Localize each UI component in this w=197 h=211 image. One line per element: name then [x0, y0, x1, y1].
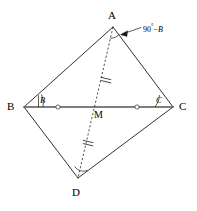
angle-a-annotation-leader — [121, 28, 142, 37]
angle-mark-d — [75, 167, 88, 172]
am-double-tick — [101, 77, 111, 82]
geometry-figure: A B C D M B C 90°−B — [0, 0, 197, 211]
annotation-variable: B — [158, 25, 163, 34]
segment-ac — [113, 27, 173, 107]
annotation-degrees: 90 — [143, 25, 151, 34]
segment-bd — [24, 107, 78, 178]
segment-ab — [24, 27, 113, 107]
vertex-label-b: B — [7, 101, 14, 112]
figure-canvas — [0, 0, 197, 211]
vertex-label-d: D — [72, 187, 80, 198]
quadrilateral-outline — [24, 27, 173, 178]
vertex-label-a: A — [108, 10, 116, 21]
angle-a-annotation: 90°−B — [143, 23, 163, 34]
vertex-label-c: C — [179, 101, 186, 112]
vertex-label-m: M — [94, 110, 103, 120]
angle-label-c: C — [156, 96, 162, 105]
mc-tick-circle — [135, 105, 139, 109]
md-double-tick — [83, 140, 93, 145]
angle-label-b: B — [40, 96, 45, 105]
bm-tick-circle — [56, 105, 60, 109]
leader-arrowhead — [121, 31, 128, 37]
